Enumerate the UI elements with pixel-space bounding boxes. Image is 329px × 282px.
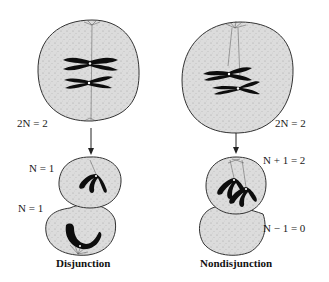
right-panel-nondisjunction: 2N = 2 N + 1 = 2 N − 1 = 0 Nondisjunctio… [182,21,306,269]
left-panel-title: Disjunction [56,257,110,269]
left-parent-ploidy-label: 2N = 2 [17,117,48,129]
right-panel-title: Nondisjunction [200,257,272,269]
left-daughter-top-cell [59,157,121,208]
left-daughter-bottom-label: N = 1 [18,202,43,214]
right-daughter-top-label: N + 1 = 2 [263,154,305,166]
left-panel-disjunction: 2N = 2 N = 1 N = 1 [17,20,139,269]
right-daughter-bottom-label: N − 1 = 0 [263,222,306,234]
left-daughter-bottom-cell [46,204,116,255]
right-parent-ploidy-label: 2N = 2 [275,117,306,129]
left-parent-cell [38,20,139,121]
left-daughter-top-label: N = 1 [29,162,54,174]
meiosis-diagram: 2N = 2 N = 1 N = 1 [0,0,329,282]
right-daughter-top-cell [206,157,266,214]
